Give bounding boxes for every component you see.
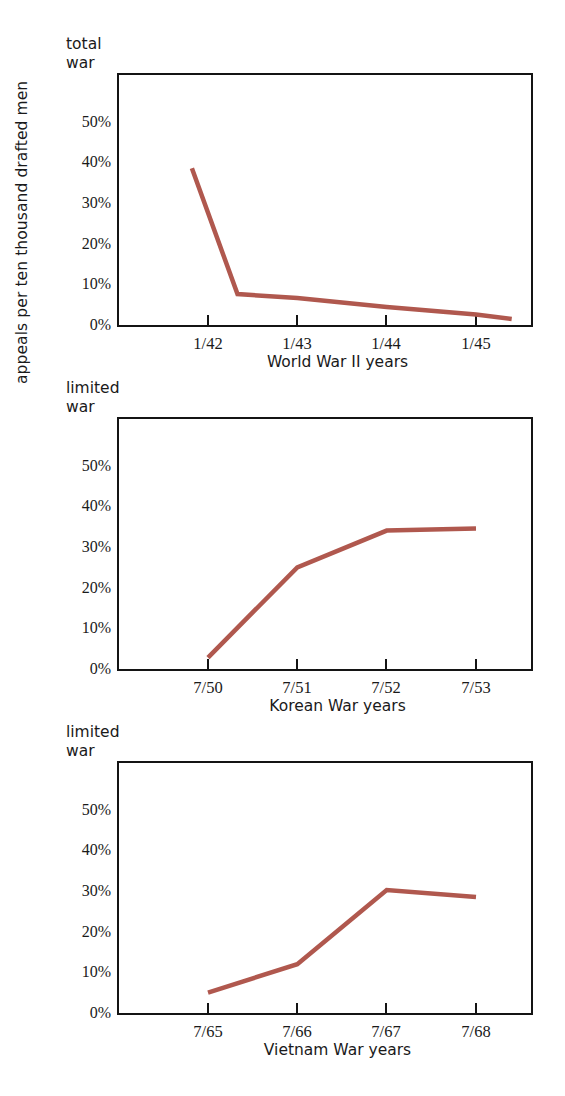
chart-panel-vietnam-war: limited war 0%10%20%30%40%50% 7/657/667/… bbox=[0, 723, 565, 1068]
y-tick-label: 0% bbox=[55, 661, 111, 677]
y-tick-label: 10% bbox=[55, 620, 111, 636]
x-tick-label: 7/65 bbox=[168, 1023, 248, 1040]
y-tick-label: 10% bbox=[55, 276, 111, 292]
y-tick-label: 20% bbox=[55, 924, 111, 940]
data-series-polyline bbox=[208, 890, 476, 993]
x-axis-title-0: World War II years bbox=[0, 353, 565, 371]
x-tick-label: 7/52 bbox=[346, 679, 426, 696]
y-tick-label: 30% bbox=[55, 539, 111, 555]
x-tick-label: 7/67 bbox=[346, 1023, 426, 1040]
x-axis-title-1: Korean War years bbox=[0, 697, 565, 715]
y-tick-label: 0% bbox=[55, 317, 111, 333]
y-tick-label: 30% bbox=[55, 883, 111, 899]
x-tick-label: 1/42 bbox=[168, 335, 248, 352]
y-tick-label: 40% bbox=[55, 154, 111, 170]
x-tick-label: 1/45 bbox=[436, 335, 516, 352]
y-tick-label: 20% bbox=[55, 580, 111, 596]
chart-panel-world-war-ii: total war 0%10%20%30%40%50% 1/421/431/44… bbox=[0, 35, 565, 380]
x-tick-label: 7/53 bbox=[436, 679, 516, 696]
y-tick-label: 40% bbox=[55, 842, 111, 858]
x-tick-label: 1/44 bbox=[346, 335, 426, 352]
x-tick-label: 7/50 bbox=[168, 679, 248, 696]
y-tick-label: 50% bbox=[55, 114, 111, 130]
x-axis-title-2: Vietnam War years bbox=[0, 1041, 565, 1059]
chart-panel-korean-war: limited war 0%10%20%30%40%50% 7/507/517/… bbox=[0, 379, 565, 724]
y-tick-label: 40% bbox=[55, 498, 111, 514]
x-tick-label: 1/43 bbox=[257, 335, 337, 352]
y-tick-label: 50% bbox=[55, 458, 111, 474]
x-tick-label: 7/66 bbox=[257, 1023, 337, 1040]
data-series-polyline bbox=[192, 168, 512, 319]
y-tick-labels-0: 0%10%20%30%40%50% bbox=[53, 35, 111, 380]
y-tick-label: 20% bbox=[55, 236, 111, 252]
y-tick-label: 30% bbox=[55, 195, 111, 211]
y-tick-labels-1: 0%10%20%30%40%50% bbox=[53, 379, 111, 724]
x-tick-label: 7/68 bbox=[436, 1023, 516, 1040]
y-tick-label: 50% bbox=[55, 802, 111, 818]
y-tick-label: 0% bbox=[55, 1005, 111, 1021]
y-tick-labels-2: 0%10%20%30%40%50% bbox=[53, 723, 111, 1068]
x-tick-label: 7/51 bbox=[257, 679, 337, 696]
data-series-polyline bbox=[208, 529, 476, 658]
y-tick-label: 10% bbox=[55, 964, 111, 980]
